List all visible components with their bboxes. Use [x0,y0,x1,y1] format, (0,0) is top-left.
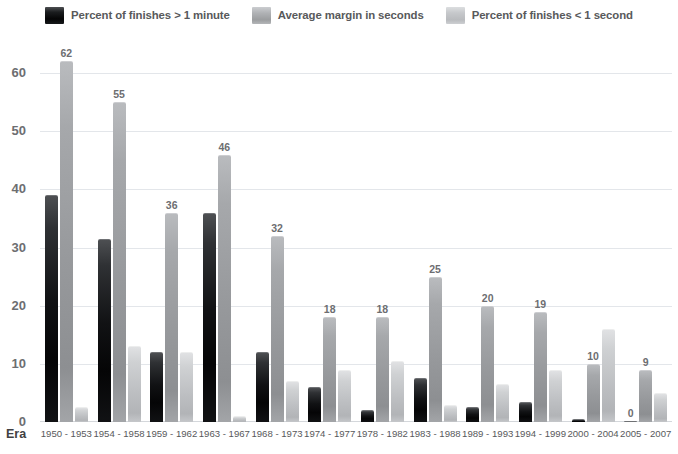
bar-value-label: 0 [628,407,634,419]
bar-value-label: 10 [587,350,599,362]
bar-group: 32 [251,44,304,422]
x-axis-tick-label: 2005 - 2007 [619,424,672,450]
bar[interactable] [519,402,532,422]
bar[interactable]: 9 [639,370,652,422]
x-axis-tick-label: 1968 - 1973 [251,424,304,450]
bar[interactable]: 18 [323,317,336,422]
bar[interactable] [308,387,321,422]
legend-label: Percent of finishes < 1 second [472,9,633,21]
bar-group: 18 [303,44,356,422]
bar[interactable] [338,370,351,422]
bar-value-label: 32 [271,222,283,234]
bar[interactable] [466,407,479,422]
bar-group: 19 [514,44,567,422]
bar-group: 62 [40,44,93,422]
bar-group: 25 [409,44,462,422]
bar[interactable]: 46 [218,155,231,423]
bar[interactable]: 36 [165,213,178,422]
bar[interactable] [602,329,615,422]
x-axis-ticks: 1950 - 19531954 - 19581959 - 19621963 - … [40,424,672,450]
bar[interactable] [549,370,562,422]
bar-group: 46 [198,44,251,422]
bar[interactable] [654,393,667,422]
bar[interactable] [233,416,246,422]
x-axis-tick-label: 1963 - 1967 [198,424,251,450]
bar[interactable]: 18 [376,317,389,422]
bar-value-label: 20 [482,292,494,304]
bar[interactable] [98,239,111,422]
bar-group: 10 [567,44,620,422]
x-axis-tick-label: 1983 - 1988 [409,424,462,450]
legend-item-s1[interactable]: Average margin in seconds [252,7,424,24]
bar-group: 55 [93,44,146,422]
bar-groups: 625536463218182520191009 [40,44,672,422]
bar[interactable] [361,410,374,422]
y-axis-tick-label: 40 [0,181,26,196]
bar[interactable]: 62 [60,61,73,422]
bar-value-label: 18 [377,303,389,315]
x-axis-title: Era [6,424,26,444]
bar[interactable] [203,213,216,422]
legend-item-s0[interactable]: Percent of finishes > 1 minute [45,7,230,24]
bar-group: 09 [619,44,672,422]
legend-swatch-icon [45,7,64,24]
bar[interactable] [150,352,163,422]
legend-swatch-icon [252,7,271,24]
chart-legend: Percent of finishes > 1 minuteAverage ma… [0,0,678,30]
bar[interactable] [128,346,141,422]
y-axis-tick-label: 10 [0,356,26,371]
x-axis-tick-label: 2000 - 2004 [567,424,620,450]
bar-value-label: 9 [643,356,649,368]
bar-value-label: 25 [429,263,441,275]
bar-group: 36 [145,44,198,422]
x-axis-tick-label: 1994 - 1999 [514,424,567,450]
bar[interactable] [256,352,269,422]
bar[interactable]: 32 [271,236,284,422]
bar-group: 18 [356,44,409,422]
bar[interactable] [391,361,404,422]
bar[interactable]: 55 [113,102,126,422]
bar[interactable]: 25 [429,277,442,422]
bar[interactable] [75,407,88,422]
y-axis-tick-label: 60 [0,65,26,80]
bar[interactable] [414,378,427,422]
x-axis-tick-label: 1954 - 1958 [93,424,146,450]
x-axis-tick-label: 1989 - 1993 [461,424,514,450]
bar-value-label: 46 [219,141,231,153]
bar-value-label: 55 [113,88,125,100]
y-axis-tick-label: 50 [0,123,26,138]
bar[interactable] [444,405,457,422]
bar[interactable] [572,419,585,422]
bar-value-label: 19 [535,298,547,310]
bar[interactable]: 0 [624,421,637,422]
bar[interactable]: 20 [481,306,494,422]
bar-value-label: 36 [166,199,178,211]
legend-item-s2[interactable]: Percent of finishes < 1 second [446,7,633,24]
legend-label: Average margin in seconds [278,9,424,21]
bar[interactable] [496,384,509,422]
y-axis-tick-label: 30 [0,240,26,255]
bar-group: 20 [461,44,514,422]
x-axis-tick-label: 1959 - 1962 [145,424,198,450]
bar[interactable] [45,195,58,422]
bar[interactable]: 10 [587,364,600,422]
bar[interactable] [180,352,193,422]
bar[interactable] [286,381,299,422]
bar-value-label: 18 [324,303,336,315]
x-axis-tick-label: 1978 - 1982 [356,424,409,450]
x-axis-tick-label: 1974 - 1977 [303,424,356,450]
y-axis-tick-label: 20 [0,298,26,313]
plot-area: 0102030405060 625536463218182520191009 [40,44,672,422]
legend-label: Percent of finishes > 1 minute [71,9,230,21]
legend-swatch-icon [446,7,465,24]
x-axis-tick-label: 1950 - 1953 [40,424,93,450]
bar-value-label: 62 [60,47,72,59]
bar[interactable]: 19 [534,312,547,422]
